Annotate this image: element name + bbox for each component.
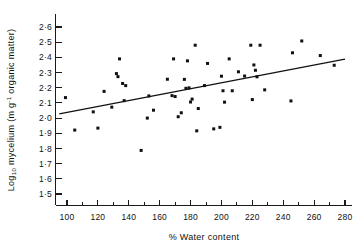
x-tick-label: 280 xyxy=(338,212,353,222)
y-tick-label: 2·3 xyxy=(39,68,52,78)
x-axis-tick-labels: 100120140160180200220240260280 xyxy=(60,212,353,222)
x-tick-label: 240 xyxy=(276,212,291,222)
data-point xyxy=(212,127,215,130)
x-tick-label: 120 xyxy=(90,212,105,222)
data-point xyxy=(231,89,234,92)
data-point xyxy=(121,82,124,85)
x-tick-label: 100 xyxy=(60,212,75,222)
y-tick-label: 1·6 xyxy=(39,174,52,184)
y-axis-title: Log10 mycelium (m g-1 organic matter) xyxy=(5,29,17,192)
data-point xyxy=(191,98,194,101)
data-point xyxy=(194,44,197,47)
data-point xyxy=(254,69,257,72)
data-point xyxy=(189,100,192,103)
x-axis-title: % Water content xyxy=(169,232,240,242)
data-point xyxy=(263,88,266,91)
data-point xyxy=(140,149,143,152)
data-point xyxy=(64,96,67,99)
y-title-mid: mycelium (m g xyxy=(6,103,16,168)
data-point xyxy=(237,70,240,73)
y-tick-label: 1·9 xyxy=(39,128,52,138)
data-point xyxy=(110,106,113,109)
x-tick-label: 260 xyxy=(307,212,322,222)
x-tick-label: 200 xyxy=(214,212,229,222)
x-tick-label: 140 xyxy=(121,212,136,222)
plot-canvas: 1·51·61·71·81·92·02·12·22·32·42·52·6 100… xyxy=(0,0,361,251)
data-point xyxy=(92,110,95,113)
y-tick-label: 2·2 xyxy=(39,83,52,93)
data-point xyxy=(195,129,198,132)
y-axis-tick-labels: 1·51·61·71·81·92·02·12·22·32·42·52·6 xyxy=(39,22,52,199)
data-point xyxy=(96,127,99,130)
scatter-plot-figure: 1·51·61·71·81·92·02·12·22·32·42·52·6 100… xyxy=(0,0,361,251)
data-point xyxy=(197,107,200,110)
data-point xyxy=(124,84,127,87)
data-point xyxy=(243,75,246,78)
data-point xyxy=(221,89,224,92)
data-point xyxy=(319,54,322,57)
svg-text:Log10 mycelium (m g-1 organic: Log10 mycelium (m g-1 organic matter) xyxy=(5,29,17,192)
data-point xyxy=(251,98,254,101)
x-axis-minor-ticks xyxy=(82,202,329,206)
data-point xyxy=(171,94,174,97)
data-point xyxy=(146,117,149,120)
data-point xyxy=(252,63,255,66)
data-point xyxy=(73,129,76,132)
data-point xyxy=(218,126,221,129)
x-tick-label: 220 xyxy=(245,212,260,222)
data-point xyxy=(183,78,186,81)
data-point xyxy=(172,57,175,60)
data-point xyxy=(118,57,121,60)
data-point xyxy=(223,101,226,104)
data-point xyxy=(289,99,292,102)
data-points xyxy=(64,39,336,151)
y-tick-label: 2·4 xyxy=(39,52,52,62)
data-point xyxy=(103,90,106,93)
data-point xyxy=(115,72,118,75)
y-tick-label: 1·5 xyxy=(39,189,52,199)
data-point xyxy=(333,64,336,67)
y-tick-label: 2·1 xyxy=(39,98,52,108)
y-tick-label: 2·5 xyxy=(39,37,52,47)
data-point xyxy=(220,75,223,78)
y-title-prefix: Log xyxy=(6,175,16,191)
regression-line xyxy=(59,59,345,114)
data-point xyxy=(177,115,180,118)
data-point xyxy=(228,57,231,60)
data-point xyxy=(206,62,209,65)
data-point xyxy=(166,78,169,81)
y-tick-label: 2·0 xyxy=(39,113,52,123)
data-point xyxy=(300,39,303,42)
data-point xyxy=(291,51,294,54)
y-axis-ticks xyxy=(56,27,62,194)
x-tick-label: 180 xyxy=(183,212,198,222)
x-tick-label: 160 xyxy=(152,212,167,222)
data-point xyxy=(116,75,119,78)
y-tick-label: 2·6 xyxy=(39,22,52,32)
data-point xyxy=(174,95,177,98)
y-title-suffix: organic matter) xyxy=(6,29,16,97)
data-point xyxy=(259,44,262,47)
data-point xyxy=(186,59,189,62)
data-point xyxy=(180,111,183,114)
axes-group xyxy=(56,14,353,206)
data-point xyxy=(249,44,252,47)
y-tick-label: 1·7 xyxy=(39,159,52,169)
y-tick-label: 1·8 xyxy=(39,144,52,154)
data-point xyxy=(152,109,155,112)
